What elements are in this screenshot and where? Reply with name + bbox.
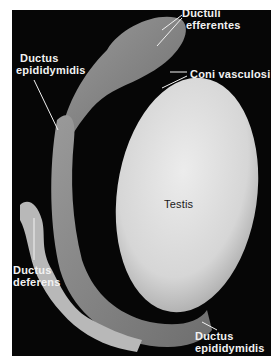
- testis: [101, 68, 271, 321]
- label-ductuli-efferentes: Ductuli efferentes: [182, 10, 241, 31]
- label-testis: Testis: [164, 198, 193, 210]
- label-ductus-deferens: Ductus deferens: [13, 264, 60, 288]
- label-ductus-epididymidis-top: Ductus epididymidis: [16, 52, 86, 76]
- label-ductus-epididymidis-bottom: Ductus epididymidis: [195, 330, 265, 354]
- label-coni-vasculosi: Coni vasculosi: [190, 68, 270, 80]
- anatomical-photo: Ductuli efferentes Coni vasculosi Ductus…: [12, 10, 271, 356]
